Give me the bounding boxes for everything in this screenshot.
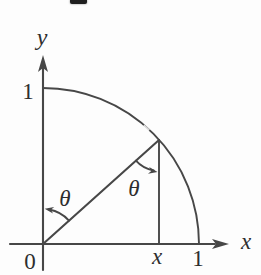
y-axis-label: y [35, 24, 48, 50]
unit-circle-quarter-arc-figure: y 1 θ θ 0 x 1 x [0, 0, 261, 275]
theta-point-label: θ [128, 176, 139, 201]
origin-angle-arc [49, 210, 69, 221]
theta-origin-label: θ [59, 186, 70, 211]
origin-label: 0 [24, 249, 36, 274]
arc-print-gap-artifact [144, 126, 150, 131]
x-coordinate-label: x [151, 244, 163, 269]
cropped-text-artifact [70, 0, 87, 4]
quarter-circle-arc [43, 88, 199, 244]
x-tick-label-1: 1 [192, 246, 204, 271]
figure-canvas: y 1 θ θ 0 x 1 x [0, 0, 261, 275]
x-axis-label: x [240, 229, 252, 254]
y-tick-label-1: 1 [22, 79, 34, 104]
